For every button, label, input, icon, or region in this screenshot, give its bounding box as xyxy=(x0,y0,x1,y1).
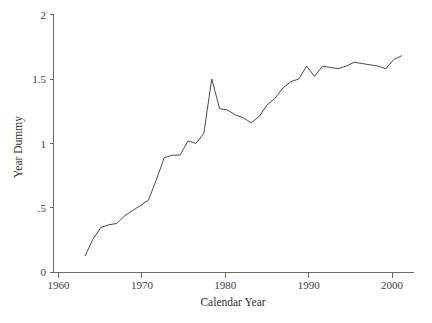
line-chart: 0 .5 1 1.5 2 1960 1970 1980 1990 2000 Ca… xyxy=(0,0,432,323)
y-tick-label-1: .5 xyxy=(38,202,47,214)
y-tick-label-4: 2 xyxy=(41,9,47,21)
data-series-line xyxy=(85,56,401,256)
x-tick-label-4: 2000 xyxy=(381,279,404,291)
y-axis-tick-labels: 0 .5 1 1.5 2 xyxy=(32,9,46,279)
y-tick-label-2: 1 xyxy=(41,138,47,150)
x-axis-title: Calendar Year xyxy=(200,296,265,308)
y-tick-label-0: 0 xyxy=(41,266,47,278)
chart-container: 0 .5 1 1.5 2 1960 1970 1980 1990 2000 Ca… xyxy=(0,0,432,323)
x-axis-tick-labels: 1960 1970 1980 1990 2000 xyxy=(48,279,404,291)
x-tick-label-0: 1960 xyxy=(48,279,71,291)
x-tick-label-3: 1990 xyxy=(298,279,321,291)
x-tick-label-1: 1970 xyxy=(131,279,154,291)
x-tick-label-2: 1980 xyxy=(214,279,237,291)
y-axis-title: Year Dummy xyxy=(12,116,25,178)
y-axis-ticks xyxy=(50,15,54,273)
x-axis-ticks xyxy=(59,273,393,278)
y-tick-label-3: 1.5 xyxy=(32,73,46,85)
